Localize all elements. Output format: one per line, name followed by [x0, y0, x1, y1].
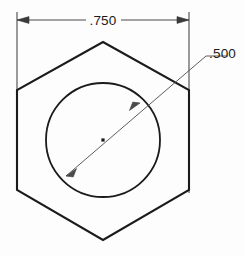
diameter-arrowhead-lower-icon [66, 169, 77, 177]
drawing-svg: .750 .500 [0, 0, 245, 256]
width-dimension-label: .750 [89, 13, 116, 28]
diameter-dimension-line [66, 56, 206, 176]
diameter-dimension-group[interactable]: .500 [66, 46, 236, 177]
center-point-icon [101, 138, 104, 141]
diameter-arrowhead-upper-icon [130, 102, 141, 110]
technical-drawing-canvas: .750 .500 [0, 0, 245, 256]
diameter-dimension-label: .500 [209, 46, 236, 61]
width-dimension-group[interactable]: .750 [17, 13, 189, 28]
width-arrowhead-right-icon [177, 17, 189, 24]
width-arrowhead-left-icon [17, 17, 29, 24]
extension-lines [17, 12, 189, 193]
